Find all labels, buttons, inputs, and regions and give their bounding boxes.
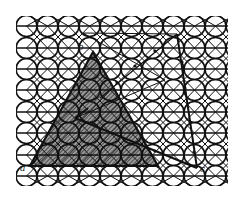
vertex-label-b: b bbox=[78, 42, 84, 52]
vertex-label-c: c bbox=[200, 164, 205, 174]
lattice-diagram: b a c bbox=[0, 0, 245, 203]
vertex-label-a: a bbox=[20, 163, 25, 173]
